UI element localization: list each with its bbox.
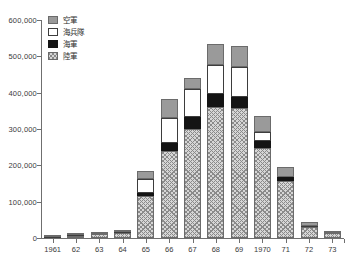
legend-label-army: 陸軍 — [63, 50, 77, 61]
bar-segment-air — [114, 230, 131, 232]
x-axis-tick-label: 69 — [235, 245, 243, 254]
bar-segment-army — [91, 234, 108, 238]
legend-label-marines: 海兵隊 — [63, 26, 84, 37]
bar-segment-navy — [231, 97, 248, 108]
bar-segment-army — [277, 181, 294, 238]
bar-1970 — [254, 20, 271, 238]
x-axis-labels: 196162636465666768691970717273 — [41, 239, 344, 264]
bar-64 — [114, 20, 131, 238]
bar-segment-air — [231, 46, 248, 67]
bar-segment-army — [67, 236, 84, 238]
bar-68 — [207, 20, 224, 238]
bar-segment-air — [137, 171, 154, 179]
bar-segment-army — [207, 107, 224, 238]
legend-swatch-army-icon — [48, 52, 58, 60]
bar-segment-marines — [254, 132, 271, 141]
bar-segment-army — [114, 233, 131, 238]
bar-segment-marines — [231, 67, 248, 96]
legend-item-air: 空軍 — [48, 14, 106, 25]
legend-label-air: 空軍 — [63, 14, 77, 25]
legend-swatch-navy-icon — [48, 40, 58, 48]
x-axis-tick — [53, 239, 54, 243]
bar-segment-air — [324, 231, 341, 233]
bar-segment-marines — [207, 65, 224, 94]
legend-swatch-marines-icon — [48, 28, 58, 36]
bar-71 — [277, 20, 294, 238]
bar-segment-marines — [184, 89, 201, 117]
x-axis-tick-label: 63 — [95, 245, 103, 254]
x-axis-tick-label: 73 — [328, 245, 336, 254]
y-axis-tick-label: 300,000 — [8, 125, 37, 134]
bar-segment-navy — [184, 117, 201, 128]
x-axis-tick-label: 71 — [282, 245, 290, 254]
x-axis-tick-end — [344, 239, 345, 243]
bar-72 — [301, 20, 318, 238]
bar-segment-navy — [207, 94, 224, 107]
x-axis-tick — [146, 239, 147, 243]
x-axis-tick — [193, 239, 194, 243]
y-axis-tick-label: 100,000 — [8, 198, 37, 207]
bar-segment-air — [91, 232, 108, 234]
bar-67 — [184, 20, 201, 238]
bar-segment-navy — [137, 193, 154, 196]
bar-66 — [161, 20, 178, 238]
x-axis-tick-label: 65 — [142, 245, 150, 254]
y-axis-tick-label: 600,000 — [8, 16, 37, 25]
legend-item-navy: 海軍 — [48, 38, 106, 49]
bar-segment-army — [184, 129, 201, 238]
x-axis-tick-label: 66 — [165, 245, 173, 254]
x-axis-tick — [262, 239, 263, 243]
bar-segment-marines — [137, 179, 154, 193]
x-axis-tick-label: 62 — [72, 245, 80, 254]
bar-segment-army — [301, 227, 318, 238]
chart-legend: 空軍海兵隊海軍陸軍 — [48, 14, 106, 62]
bar-segment-navy — [161, 143, 178, 151]
y-axis-tick-label: 400,000 — [8, 89, 37, 98]
x-axis-tick — [76, 239, 77, 243]
x-axis-tick — [216, 239, 217, 243]
bar-segment-air — [161, 99, 178, 118]
x-axis-tick — [239, 239, 240, 243]
x-axis-tick-label: 1961 — [44, 245, 61, 254]
y-axis-tick-label: 200,000 — [8, 161, 37, 170]
bar-segment-air — [67, 233, 84, 235]
x-axis-tick — [99, 239, 100, 243]
x-axis-tick — [123, 239, 124, 243]
x-axis-tick-label: 72 — [305, 245, 313, 254]
x-axis-tick — [332, 239, 333, 243]
bar-segment-air — [44, 235, 61, 237]
chart-container: 0100,000200,000300,000400,000500,000600,… — [0, 0, 350, 269]
x-axis-tick-label: 67 — [188, 245, 196, 254]
bar-65 — [137, 20, 154, 238]
legend-item-army: 陸軍 — [48, 50, 106, 61]
bar-segment-air — [207, 44, 224, 65]
bar-segment-air — [277, 167, 294, 178]
bar-segment-army — [137, 196, 154, 238]
x-axis-tick-label: 64 — [118, 245, 126, 254]
x-axis-tick — [309, 239, 310, 243]
bar-segment-air — [184, 78, 201, 89]
x-axis-tick — [169, 239, 170, 243]
legend-label-navy: 海軍 — [63, 38, 77, 49]
bar-segment-army — [231, 108, 248, 238]
y-axis-tick-label: 500,000 — [8, 52, 37, 61]
bar-segment-air — [254, 116, 271, 132]
x-axis-tick-label: 68 — [212, 245, 220, 254]
bar-segment-marines — [161, 118, 178, 143]
bar-segment-navy — [277, 177, 294, 180]
legend-swatch-air-icon — [48, 16, 58, 24]
legend-item-marines: 海兵隊 — [48, 26, 106, 37]
bar-segment-army — [254, 148, 271, 238]
x-axis-tick — [286, 239, 287, 243]
bar-segment-navy — [254, 141, 271, 147]
bar-segment-air — [301, 222, 318, 226]
bar-segment-army — [324, 233, 341, 238]
x-axis-tick-label: 1970 — [254, 245, 271, 254]
bar-73 — [324, 20, 341, 238]
bar-segment-army — [161, 151, 178, 238]
bar-69 — [231, 20, 248, 238]
y-axis-labels: 0100,000200,000300,000400,000500,000600,… — [0, 0, 37, 269]
